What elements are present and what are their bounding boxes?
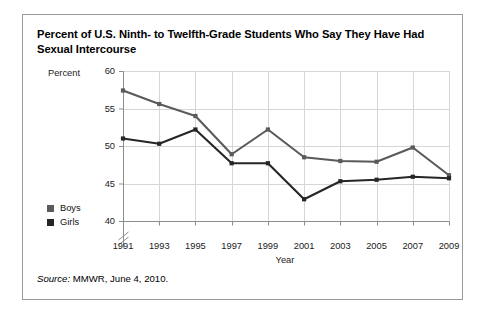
data-point-girls xyxy=(411,175,415,179)
y-tick-labels-group: 4045505560 xyxy=(105,66,115,226)
legend-label-boys: Boys xyxy=(60,203,81,213)
gridlines-group xyxy=(123,71,450,221)
data-point-boys xyxy=(266,127,270,131)
legend-swatch-boys xyxy=(47,205,54,212)
source-note: Source: MMWR, June 4, 2010. xyxy=(37,273,168,284)
x-tick-labels-group: 1991199319951997199920012003200520072009 xyxy=(113,241,460,251)
data-point-boys xyxy=(157,102,161,106)
x-tick-label: 1995 xyxy=(185,241,206,251)
x-tick-label: 2001 xyxy=(294,241,315,251)
data-point-girls xyxy=(121,136,125,140)
data-point-girls xyxy=(266,161,270,165)
data-point-girls xyxy=(302,197,306,201)
legend-item-girls: Girls xyxy=(47,215,81,229)
legend-item-boys: Boys xyxy=(47,201,81,215)
source-text: MMWR, June 4, 2010. xyxy=(70,273,168,284)
chart-legend: Boys Girls xyxy=(47,201,81,229)
y-tick-label: 40 xyxy=(105,216,115,226)
x-axis-title: Year xyxy=(276,255,295,265)
data-point-boys xyxy=(121,88,125,92)
data-point-boys xyxy=(411,145,415,149)
data-point-boys xyxy=(338,159,342,163)
y-tick-label: 50 xyxy=(105,141,115,151)
figure-panel: Percent of U.S. Ninth- to Twelfth-Grade … xyxy=(22,14,463,300)
series-line-boys xyxy=(123,91,449,176)
axes-group xyxy=(119,72,450,248)
x-tick-label: 1991 xyxy=(113,241,134,251)
x-tick-label: 2009 xyxy=(439,241,460,251)
x-tick-label: 1993 xyxy=(149,241,170,251)
data-point-girls xyxy=(193,127,197,131)
x-tick-label: 1999 xyxy=(258,241,279,251)
source-label: Source: xyxy=(37,273,70,284)
data-point-girls xyxy=(447,176,451,180)
y-tick-label: 60 xyxy=(105,66,115,76)
x-tick-label: 2003 xyxy=(330,241,351,251)
data-series-group xyxy=(123,91,449,200)
data-point-boys xyxy=(374,160,378,164)
y-tick-label: 45 xyxy=(105,179,115,189)
legend-label-girls: Girls xyxy=(60,217,79,227)
data-point-girls xyxy=(230,161,234,165)
series-line-girls xyxy=(123,130,449,200)
legend-swatch-girls xyxy=(47,219,54,226)
x-tick-label: 2007 xyxy=(402,241,423,251)
data-point-girls xyxy=(157,142,161,146)
x-tick-label: 2005 xyxy=(366,241,387,251)
x-tick-label: 1997 xyxy=(221,241,242,251)
line-chart: 4045505560 19911993199519971999200120032… xyxy=(23,15,464,301)
data-point-girls xyxy=(374,178,378,182)
plot-area-wrapper: 4045505560 19911993199519971999200120032… xyxy=(23,15,464,301)
data-point-boys xyxy=(302,155,306,159)
data-point-boys xyxy=(230,152,234,156)
data-point-boys xyxy=(193,114,197,118)
y-axis-title: Percent xyxy=(48,68,80,78)
data-point-girls xyxy=(338,179,342,183)
y-tick-label: 55 xyxy=(105,104,115,114)
